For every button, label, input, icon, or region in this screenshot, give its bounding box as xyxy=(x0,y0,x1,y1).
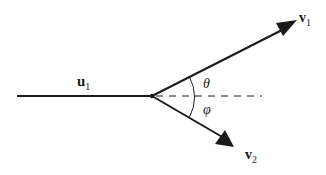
label-v1: v1 xyxy=(299,10,311,28)
label-v2: v2 xyxy=(245,147,257,165)
arrowhead-v2-icon xyxy=(215,130,234,147)
label-phi: φ xyxy=(203,102,211,117)
outgoing-vector-2-line xyxy=(152,96,224,138)
outgoing-vector-1-line xyxy=(152,28,286,96)
label-u1: u1 xyxy=(77,73,90,92)
angle-arc xyxy=(190,77,195,117)
collision-diagram: u1 v1 v2 θ φ xyxy=(0,0,326,175)
arrowhead-v1-icon xyxy=(276,20,297,36)
label-theta: θ xyxy=(203,76,210,91)
